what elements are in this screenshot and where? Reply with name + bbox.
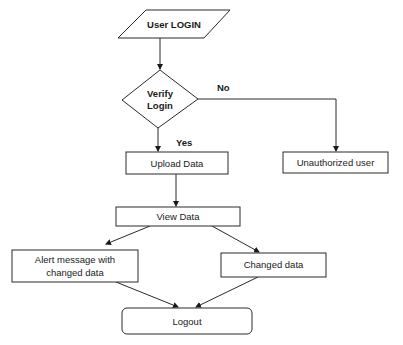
edge-verify-to-unauthorized	[198, 99, 336, 151]
edge-view-to-changed	[212, 226, 259, 252]
node-view-data-label: View Data	[156, 211, 200, 222]
edge-view-to-alert	[106, 226, 150, 244]
node-verify-label-line1: Verify	[147, 88, 174, 99]
node-logout-label: Logout	[172, 316, 201, 327]
node-logout: Logout	[122, 308, 252, 334]
node-alert-message: Alert message with changed data	[12, 250, 138, 282]
edge-changed-to-logout	[196, 277, 258, 307]
node-alert-label-line1: Alert message with	[35, 254, 115, 265]
node-unauthorized-user-label: Unauthorized user	[297, 157, 375, 168]
edge-alert-to-logout	[116, 282, 178, 307]
node-view-data: View Data	[116, 207, 240, 226]
node-unauthorized-user: Unauthorized user	[283, 152, 388, 173]
node-alert-label-line2: changed data	[46, 267, 104, 278]
node-verify-label-line2: Login	[147, 100, 173, 111]
edge-label-no: No	[217, 82, 230, 93]
node-upload-data: Upload Data	[126, 152, 228, 174]
node-user-login-label: User LOGIN	[147, 19, 201, 30]
flowchart-canvas: No Yes User LOGIN Verify Login Upload Da…	[0, 0, 403, 345]
edge-label-yes: Yes	[176, 137, 192, 148]
node-changed-data: Changed data	[221, 253, 326, 277]
node-user-login: User LOGIN	[118, 10, 230, 38]
node-changed-data-label: Changed data	[244, 259, 304, 270]
diamond-shape	[122, 70, 198, 128]
node-verify-login: Verify Login	[122, 70, 198, 128]
node-upload-data-label: Upload Data	[151, 158, 205, 169]
